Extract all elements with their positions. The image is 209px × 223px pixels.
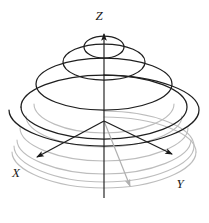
conical-spiral-diagram: Z X Y [0, 0, 209, 223]
y-axis-label: Y [176, 176, 185, 191]
z-axis-label: Z [95, 8, 103, 23]
figure-container: Z X Y [0, 0, 209, 223]
x-axis-label: X [11, 165, 21, 180]
radius-vector [104, 121, 130, 186]
